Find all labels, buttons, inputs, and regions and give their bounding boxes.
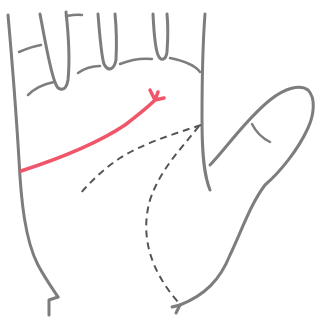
crease-palm-lower [28,82,54,95]
palm-diagram: palm illustration [0,0,328,326]
crease-ring-right [170,58,200,72]
thumb-outline [180,87,313,305]
finger-middle [98,14,116,69]
finger-ring [153,14,168,59]
dashed-line-left [79,125,201,195]
crease-middle-right [120,59,152,64]
hand-right-edge [202,14,210,190]
hand-left-edge [8,15,58,297]
palm-drawing [0,0,328,326]
dashed-line-lower [146,126,199,302]
thumb-base-fork [172,305,180,313]
highlighted-line-fork [150,90,164,100]
thumb-crease [252,124,270,142]
crease-index-left [19,45,41,52]
finger-index [40,12,69,89]
crease-middle-left [78,66,100,73]
wrist-left-fork [49,297,58,315]
highlighted-palm-line [21,100,155,171]
crease-index-top [66,15,82,16]
